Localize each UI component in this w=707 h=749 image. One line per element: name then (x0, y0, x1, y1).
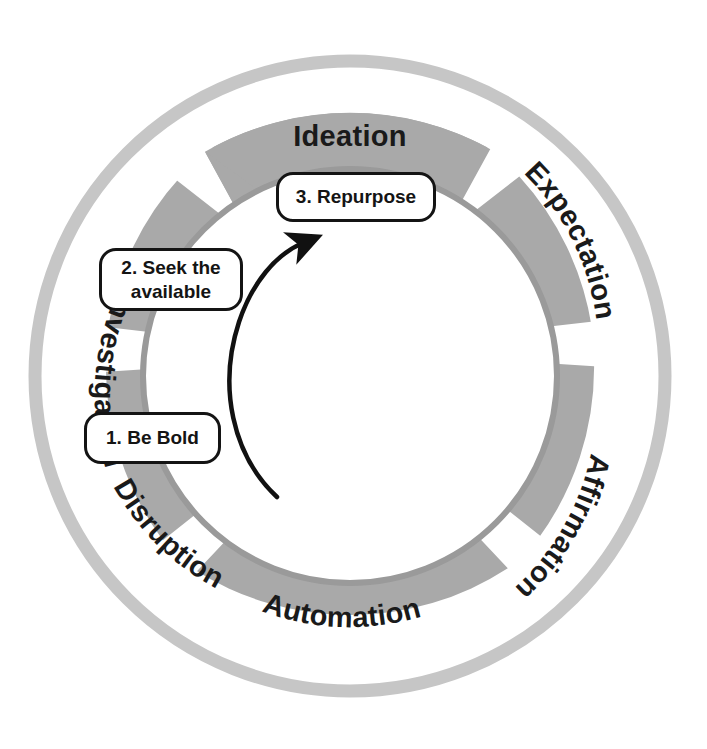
segment-label-ideation: Ideation (293, 120, 407, 152)
callout-repurpose[interactable]: 3. Repurpose (276, 172, 436, 222)
cycle-wheel-graphic: Ideation Expectation Affirmation Automat… (0, 0, 707, 749)
callout-seek-the-available[interactable]: 2. Seek the available (99, 248, 243, 311)
diagram-canvas: Ideation Expectation Affirmation Automat… (0, 0, 707, 749)
callout-be-bold[interactable]: 1. Be Bold (84, 412, 221, 464)
inner-circle (143, 169, 557, 583)
